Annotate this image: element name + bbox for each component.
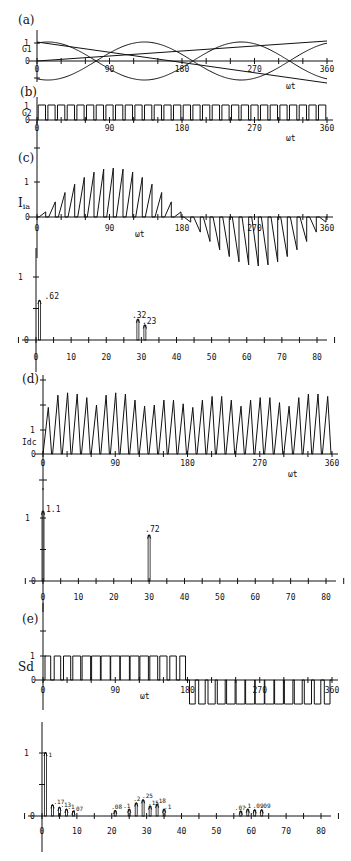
y-one-label: 1 <box>24 749 29 758</box>
x-tick-label: 360 <box>320 65 335 74</box>
panel-c-spectrum: 0102030405060708001.62.32.23 <box>18 248 335 372</box>
x-tick-label: 180 <box>175 124 190 133</box>
x-tick-label: 0 <box>41 459 46 468</box>
x-tick-label: 270 <box>253 459 268 468</box>
panel-label-e: (e) <box>22 612 38 626</box>
harmonic-bar <box>142 800 144 816</box>
x-tick-label: 0 <box>34 353 39 362</box>
bar-arrowhead <box>128 809 131 813</box>
x-tick-label: 80 <box>316 827 326 836</box>
x-tick-label: 360 <box>325 686 340 695</box>
panel-c: (c)09018027036001Iiaωt <box>18 122 334 266</box>
x-tick-label: 70 <box>277 353 287 362</box>
y-one-label: 1 <box>18 273 23 282</box>
y-one-label: 1 <box>25 514 30 523</box>
y-one-label: 1 <box>24 178 29 187</box>
x-tick-label: 60 <box>250 593 260 602</box>
x-tick-label: 0 <box>41 593 46 602</box>
panel-a: (a)09018027036001G1ωt <box>18 13 334 91</box>
harmonic-value-label: .2 <box>133 795 141 802</box>
x-tick-label: 80 <box>312 353 322 362</box>
xlabel-wt: ωt <box>135 230 145 239</box>
x-tick-label: 80 <box>321 593 331 602</box>
harmonic-value-label: .62 <box>45 292 60 301</box>
y-zero-label: 0 <box>31 450 36 459</box>
bar-arrowhead <box>135 802 138 806</box>
x-tick-label: 30 <box>144 593 154 602</box>
harmonic-value-label: .1 <box>164 803 172 810</box>
x-tick-label: 360 <box>325 459 340 468</box>
ylabel-G2: G2 <box>22 109 32 118</box>
x-tick-label: 70 <box>286 593 296 602</box>
ylabel-G1: G1 <box>22 45 32 54</box>
harmonic-bar <box>144 326 146 341</box>
x-tick-label: 60 <box>242 353 252 362</box>
panel-label-c: (c) <box>18 151 34 165</box>
bar-arrowhead <box>149 806 152 810</box>
harmonic-value-label: .1 <box>123 802 131 809</box>
ylabel-Sd: Sd <box>18 660 34 674</box>
harmonic-bar <box>137 320 139 340</box>
bar-arrowhead <box>148 535 151 539</box>
ylabel-Idc: Idc <box>22 438 37 447</box>
x-tick-label: 50 <box>215 593 225 602</box>
y-zero-label: 0 <box>30 812 35 821</box>
figure: (a)09018027036001G1ωt (b)09018027036001G… <box>0 0 351 861</box>
x-tick-label: 270 <box>247 224 262 233</box>
harmonic-value-label: .23 <box>142 317 157 326</box>
x-tick-label: 40 <box>172 353 182 362</box>
x-tick-label: 20 <box>107 827 117 836</box>
panel-e-spectrum: 01020304050607080011.17.13.1.07.08.1.2.2… <box>24 722 338 852</box>
panel-label-a: (a) <box>18 13 35 27</box>
xlabel-wt: ωt <box>140 692 150 701</box>
harmonic-bar <box>39 301 41 340</box>
bar-arrowhead <box>239 811 242 815</box>
x-tick-label: 270 <box>247 124 262 133</box>
panel-d: (d)09018027036001Idcωt <box>22 372 339 490</box>
bar-arrowhead <box>114 810 117 814</box>
panel-e: (e)09018027036001Sdωt <box>18 603 339 710</box>
x-tick-label: 30 <box>137 353 147 362</box>
xlabel-wt: ωt <box>286 82 296 91</box>
gate-pulse-train <box>37 105 326 120</box>
harmonic-value-label: .09 <box>260 802 271 809</box>
x-tick-label: 90 <box>105 124 115 133</box>
x-tick-label: 50 <box>212 827 222 836</box>
panel-label-d: (d) <box>22 372 39 386</box>
harmonic-value-label: 1.1 <box>46 505 61 514</box>
x-tick-label: 60 <box>246 827 256 836</box>
bar-arrowhead <box>246 809 249 813</box>
harmonic-bar <box>45 753 47 816</box>
reference-line-2 <box>37 42 327 83</box>
harmonic-bar <box>148 536 150 581</box>
x-tick-label: 180 <box>180 686 195 695</box>
y-zero-label: 0 <box>25 57 30 66</box>
x-tick-label: 40 <box>177 827 187 836</box>
x-tick-label: 20 <box>109 593 119 602</box>
dc-link-current-trace <box>43 393 332 454</box>
x-tick-label: 90 <box>105 224 115 233</box>
harmonic-value-label: .07 <box>72 805 83 812</box>
ylabel-subscript: ia <box>23 202 31 211</box>
harmonic-value-label: 1 <box>49 751 53 758</box>
ylabel-Iia: Iia <box>18 196 30 211</box>
x-tick-label: 0 <box>35 224 40 233</box>
x-tick-label: 0 <box>35 65 40 74</box>
harmonic-value-label: .72 <box>145 525 160 534</box>
x-tick-label: 180 <box>175 224 190 233</box>
harmonic-value-label: .08 <box>111 803 122 810</box>
x-tick-label: 40 <box>180 593 190 602</box>
bar-arrowhead <box>142 799 145 803</box>
panel-d-spectrum: 01020304050607080011.1.72 <box>25 488 344 612</box>
x-tick-label: 10 <box>72 827 82 836</box>
y-zero-label: 0 <box>31 676 36 685</box>
xlabel-wt: ωt <box>286 134 296 143</box>
x-tick-label: 0 <box>40 827 45 836</box>
panel-label-b: (b) <box>20 85 37 99</box>
y-zero-label: 0 <box>25 213 30 222</box>
xlabel-wt: ωt <box>288 470 298 479</box>
x-tick-label: 90 <box>110 459 120 468</box>
x-tick-label: 90 <box>110 686 120 695</box>
x-tick-label: 360 <box>320 124 335 133</box>
x-tick-label: 20 <box>101 353 111 362</box>
